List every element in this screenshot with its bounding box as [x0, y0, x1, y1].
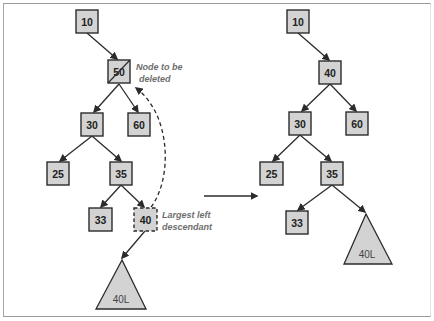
- bst-deletion-diagram: 10 50 30 60 25 35 33 40: [0, 0, 434, 321]
- svg-text:25: 25: [266, 168, 278, 180]
- after-edge-35-40L: [332, 185, 365, 212]
- before-node-40-largest-left: 40: [134, 208, 157, 231]
- after-node-40: 40: [319, 61, 341, 84]
- edge-40-40L: [122, 231, 145, 258]
- svg-text:33: 33: [291, 217, 303, 229]
- edge-35-40: [121, 185, 144, 207]
- svg-text:60: 60: [351, 118, 363, 130]
- after-node-60: 60: [346, 112, 368, 135]
- after-node-30: 30: [289, 112, 311, 135]
- svg-text:33: 33: [95, 214, 107, 226]
- svg-text:40L: 40L: [113, 294, 130, 305]
- annotation-node-to-be-deleted-2: deleted: [139, 74, 171, 84]
- after-node-25: 25: [260, 162, 283, 185]
- after-edge-35-33: [298, 185, 332, 210]
- before-subtree-40L: 40L: [96, 260, 146, 309]
- annotation-largest-left-1: Largest left: [162, 210, 212, 220]
- edge-50-30: [94, 84, 119, 112]
- annotation-largest-left-2: descendant: [162, 222, 213, 232]
- before-node-33: 33: [89, 208, 112, 231]
- before-node-50-deleted: 50: [108, 60, 130, 83]
- before-tree: 10 50 30 60 25 35 33 40: [47, 10, 213, 309]
- after-edge-30-25: [273, 135, 300, 161]
- after-node-10: 10: [287, 10, 309, 33]
- edge-30-25: [60, 136, 92, 161]
- edge-35-33: [101, 185, 121, 207]
- after-node-35: 35: [321, 162, 343, 185]
- svg-text:60: 60: [133, 119, 145, 131]
- before-node-10: 10: [76, 10, 98, 33]
- after-edge-10-40: [298, 33, 329, 60]
- svg-text:30: 30: [86, 119, 98, 131]
- before-node-60: 60: [128, 113, 150, 136]
- svg-text:40: 40: [324, 67, 336, 79]
- before-node-25: 25: [47, 162, 69, 185]
- after-edge-40-60: [330, 84, 356, 111]
- svg-text:30: 30: [294, 118, 306, 130]
- after-edge-40-30: [302, 84, 330, 111]
- after-tree: 10 40 30 60 25 35 33 40L: [260, 10, 392, 264]
- svg-text:35: 35: [115, 168, 127, 180]
- after-subtree-40L: 40L: [344, 214, 392, 264]
- edge-30-35: [92, 136, 121, 161]
- before-node-35: 35: [110, 162, 132, 185]
- svg-text:35: 35: [326, 168, 338, 180]
- dashed-replacement-arrow: [136, 88, 165, 207]
- svg-text:25: 25: [52, 168, 64, 180]
- after-edge-30-35: [300, 135, 331, 161]
- before-node-30: 30: [81, 113, 103, 136]
- annotation-node-to-be-deleted-1: Node to be: [136, 62, 183, 72]
- svg-text:40L: 40L: [359, 249, 376, 260]
- edge-10-50: [87, 33, 117, 59]
- after-node-33: 33: [286, 211, 308, 234]
- svg-text:10: 10: [81, 16, 93, 28]
- svg-text:40: 40: [140, 214, 152, 226]
- svg-text:10: 10: [292, 16, 304, 28]
- edge-50-60: [119, 84, 138, 112]
